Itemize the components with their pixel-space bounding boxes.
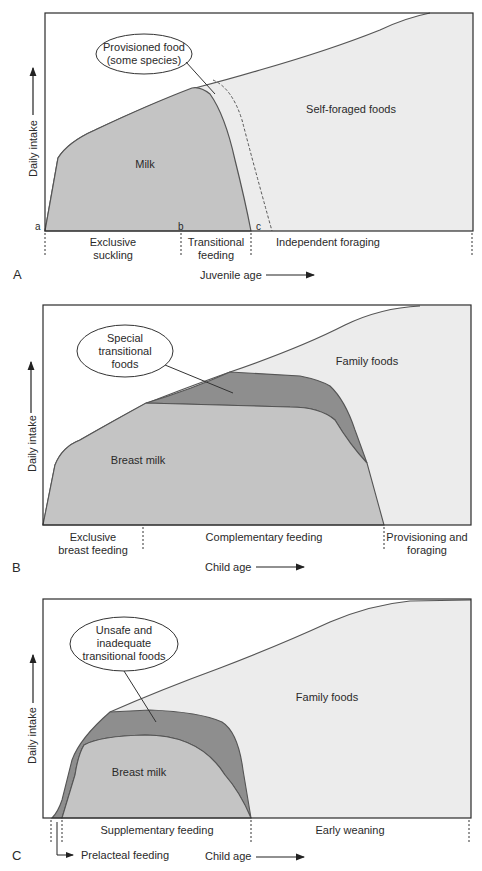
callout-line-2: inadequate [97,637,151,649]
callout-line-2: transitional [98,345,151,357]
panel-letter: B [12,560,21,575]
point-a: a [35,221,41,232]
breast-milk-label: Breast milk [111,454,166,466]
y-axis-label: Daily intake [27,120,39,177]
phase-label: Transitional [188,236,244,248]
panel-letter: C [12,848,21,863]
phase-label: foraging [407,544,447,556]
callout-line-3: transitional foods [82,650,166,662]
prelacteal-label: Prelacteal feeding [81,849,169,861]
panel-b: Special transitional foods Breast milk F… [12,305,471,575]
phase-label: Provisioning and [386,531,467,543]
phase-label: Supplementary feeding [100,824,213,836]
callout-line-3: foods [112,358,139,370]
phase-label: Independent foraging [276,236,380,248]
callout-line-2: (some species) [107,54,182,66]
point-c: c [256,221,261,232]
milk-label: Milk [135,158,155,170]
phase-label: Exclusive [90,236,136,248]
callout-line-1: Special [107,332,143,344]
callout-line-1: Provisioned food [103,41,185,53]
x-axis-label: Child age [205,561,251,573]
phase-label: Complementary feeding [206,531,323,543]
phase-label: feeding [198,249,234,261]
phase-label: Exclusive [70,531,116,543]
phase-label: suckling [93,249,133,261]
x-axis-label: Juvenile age [200,269,262,281]
breast-milk-area [43,403,384,525]
phase-label: Early weaning [315,824,384,836]
feeding-diagrams: Provisioned food (some species) Milk Sel… [0,0,482,871]
x-axis-label: Child age [205,850,251,862]
callout-line-1: Unsafe and [96,624,152,636]
panel-letter: A [13,267,22,282]
prelacteal-arrow [57,822,73,855]
y-axis-label: Daily intake [26,707,38,764]
point-b: b [178,221,184,232]
panel-a: Provisioned food (some species) Milk Sel… [13,13,473,282]
family-foods-label: Family foods [296,691,359,703]
breast-milk-label: Breast milk [112,766,167,778]
y-axis-label: Daily intake [26,415,38,472]
self-foraged-label: Self-foraged foods [306,103,396,115]
phase-label: breast feeding [58,544,128,556]
panel-c: Unsafe and inadequate transitional foods… [12,599,471,863]
family-foods-label: Family foods [336,355,399,367]
